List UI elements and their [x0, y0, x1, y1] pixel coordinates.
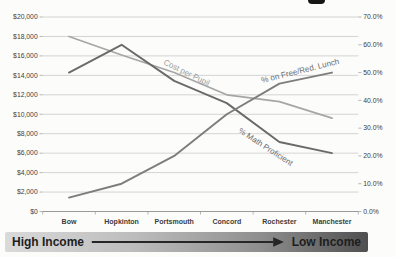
left-axis-tick-label: $6,000	[17, 149, 38, 156]
x-axis-category-label: Bow	[62, 218, 77, 225]
left-axis-tick-label: $10,000	[13, 111, 38, 118]
left-axis-tick-label: $0	[30, 208, 38, 215]
right-axis-tick-label: 70.0%	[363, 13, 382, 20]
left-axis-tick-label: $18,000	[13, 33, 38, 40]
right-axis-tick-label: 60.0%	[363, 41, 382, 48]
left-axis-tick-label: $8,000	[17, 130, 38, 137]
left-axis-tick-label: $16,000	[13, 52, 38, 59]
x-axis-category-label: Hopkinton	[104, 218, 139, 226]
x-axis-category-label: Concord	[212, 218, 241, 225]
x-axis-category-label: Manchester	[313, 218, 352, 225]
left-axis-tick-label: $4,000	[17, 169, 38, 176]
left-axis-tick-label: $20,000	[13, 13, 38, 20]
right-axis-tick-label: 0.0%	[363, 208, 379, 215]
right-arrow-icon	[90, 236, 286, 248]
left-axis-tick-label: $14,000	[13, 72, 38, 79]
dual-axis-line-chart: $20,000$18,000$16,000$14,000$12,000$10,0…	[0, 0, 396, 230]
income-gradient-banner: High Income Low Income	[5, 232, 368, 252]
series-label--on-free-red-lunch: % on Free/Red. Lunch	[260, 57, 340, 85]
screenshot-root: $20,000$18,000$16,000$14,000$12,000$10,0…	[0, 0, 396, 257]
x-axis-category-label: Rochester	[262, 218, 297, 225]
chart-svg: $20,000$18,000$16,000$14,000$12,000$10,0…	[0, 0, 396, 230]
low-income-label: Low Income	[292, 232, 361, 252]
left-axis-tick-label: $2,000	[17, 188, 38, 195]
right-axis-tick-label: 50.0%	[363, 69, 382, 76]
right-axis-tick-label: 40.0%	[363, 97, 382, 104]
high-income-label: High Income	[12, 232, 84, 252]
left-axis-tick-label: $12,000	[13, 91, 38, 98]
right-axis-tick-label: 30.0%	[363, 124, 382, 131]
x-axis-category-label: Portsmouth	[155, 218, 194, 225]
right-axis-tick-label: 20.0%	[363, 152, 382, 159]
right-axis-tick-label: 10.0%	[363, 180, 382, 187]
series-line--math-proficient	[69, 45, 332, 153]
series-label-cost-per-pupil: Cost per Pupil	[162, 58, 211, 88]
